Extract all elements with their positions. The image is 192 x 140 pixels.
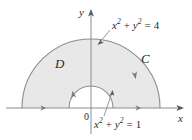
outer-eq-value: 4 xyxy=(154,19,160,31)
region-label-d: D xyxy=(55,57,64,70)
curve-label-c: C xyxy=(141,52,150,65)
y-axis-label: y xyxy=(79,7,84,18)
figure-container: x2 + y2 = 4 x2 + y2 = 1 D C x y 0 xyxy=(0,0,192,140)
inner-circle-equation-label: x2 + y2 = 1 xyxy=(94,117,141,130)
origin-label: 0 xyxy=(84,112,89,122)
inner-circle-leader-line xyxy=(104,94,112,116)
outer-eq-equals: = xyxy=(142,19,154,31)
inner-eq-value: 1 xyxy=(136,118,142,130)
outer-eq-plus: + xyxy=(121,19,133,31)
x-axis-label: x xyxy=(178,113,183,124)
inner-eq-equals: = xyxy=(124,118,136,130)
outer-circle-equation-label: x2 + y2 = 4 xyxy=(112,18,159,31)
inner-eq-plus: + xyxy=(103,118,115,130)
outer-circle-leader-line xyxy=(101,30,111,42)
